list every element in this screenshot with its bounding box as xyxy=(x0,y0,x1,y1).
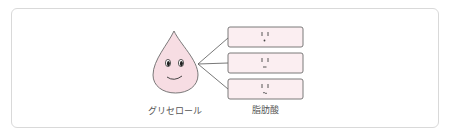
glycerol-drop xyxy=(153,31,198,93)
bond-line-1 xyxy=(198,38,228,64)
fatty-acid-label: 脂肪酸 xyxy=(252,103,279,116)
mouth-dot xyxy=(264,40,266,42)
fatty-acid-box xyxy=(228,79,303,99)
fatty-acid-chain-2 xyxy=(228,53,303,73)
bond-line-3 xyxy=(198,64,228,89)
fatty-acid-box xyxy=(228,27,303,47)
glycerol-fatty-acid-diagram xyxy=(0,0,451,135)
glycerol-label: グリセロール xyxy=(148,104,202,117)
fatty-acid-chain-1 xyxy=(228,27,303,47)
bond-line-2 xyxy=(198,63,228,64)
ester-bond-lines xyxy=(198,38,228,89)
fatty-acid-box xyxy=(228,53,303,73)
fatty-acid-chain-3 xyxy=(228,79,303,99)
drop-shape xyxy=(153,31,198,93)
